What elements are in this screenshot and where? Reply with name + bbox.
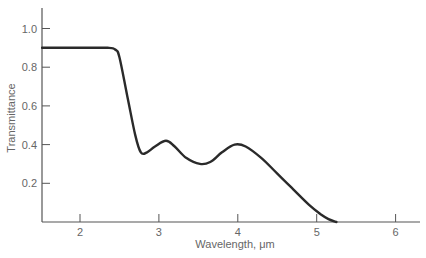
- axes: [42, 8, 420, 222]
- x-ticks: 23456: [77, 214, 399, 238]
- x-tick-label: 6: [393, 226, 399, 238]
- x-tick-label: 3: [156, 226, 162, 238]
- y-tick-label: 0.8: [22, 61, 37, 73]
- x-axis-label: Wavelength, μm: [195, 238, 274, 250]
- transmittance-chart: 0.20.40.60.81.0 23456 Transmittance Wave…: [0, 0, 426, 258]
- y-axis-label: Transmittance: [5, 83, 17, 152]
- y-tick-label: 0.2: [22, 177, 37, 189]
- y-tick-label: 0.6: [22, 100, 37, 112]
- x-tick-label: 5: [314, 226, 320, 238]
- y-tick-label: 0.4: [22, 139, 37, 151]
- x-tick-label: 4: [235, 226, 241, 238]
- x-tick-label: 2: [77, 226, 83, 238]
- transmittance-curve: [42, 48, 336, 222]
- y-tick-label: 1.0: [22, 23, 37, 35]
